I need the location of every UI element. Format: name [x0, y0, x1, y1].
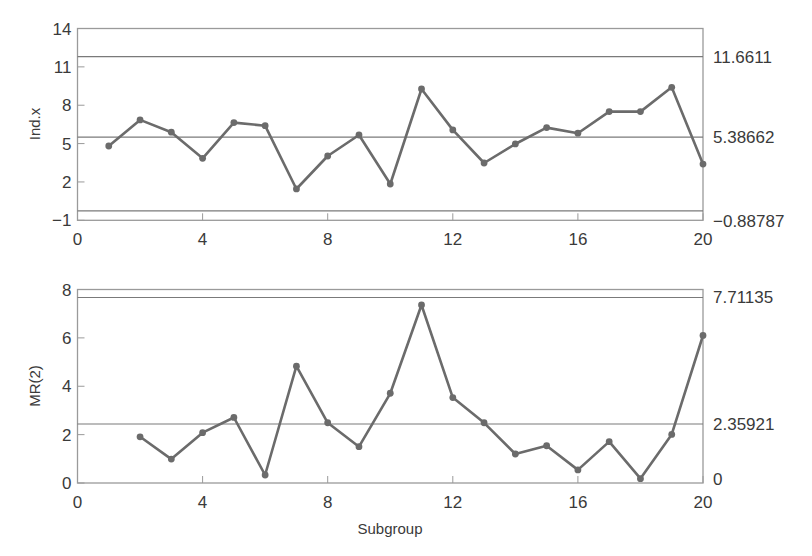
data-point-marker: [387, 181, 394, 188]
data-point-marker: [356, 132, 363, 139]
data-point-marker: [199, 429, 206, 436]
x-tick-label: 8: [323, 493, 332, 512]
y-tick-label: 2: [62, 426, 71, 445]
y-tick-label: 14: [53, 20, 72, 39]
data-point-marker: [449, 394, 456, 401]
data-point-marker: [481, 419, 488, 426]
x-tick-label: 4: [198, 230, 207, 249]
y-tick-label: 2: [62, 173, 71, 192]
y-axis-title: MR(2): [26, 365, 43, 407]
data-point-marker: [230, 119, 237, 126]
data-point-marker: [137, 433, 144, 440]
y-tick-label: 0: [62, 474, 71, 493]
data-point-marker: [668, 84, 675, 91]
data-series-line: [140, 305, 703, 479]
data-point-marker: [637, 108, 644, 115]
moving-range-chart: 024680481216207.711352.359210MR(2)Subgro…: [26, 281, 774, 538]
x-tick-label: 12: [443, 230, 462, 249]
data-point-marker: [387, 390, 394, 397]
data-point-marker: [230, 414, 237, 421]
individuals-mr-control-charts: −1258111404812162011.66115.38662−0.88787…: [0, 0, 812, 556]
data-point-marker: [262, 122, 269, 129]
y-tick-label: 6: [62, 329, 71, 348]
data-point-marker: [668, 431, 675, 438]
x-tick-label: 8: [323, 230, 332, 249]
data-point-marker: [543, 124, 550, 131]
data-point-marker: [575, 130, 582, 137]
data-point-marker: [512, 141, 519, 148]
data-point-marker: [324, 419, 331, 426]
x-tick-label: 20: [694, 493, 713, 512]
y-tick-label: −1: [52, 211, 71, 230]
data-point-marker: [512, 451, 519, 458]
control-label-cl: 5.38662: [713, 128, 774, 147]
data-point-marker: [137, 117, 144, 124]
data-point-marker: [449, 126, 456, 133]
x-tick-label: 20: [694, 230, 713, 249]
data-point-marker: [700, 332, 707, 339]
data-point-marker: [606, 108, 613, 115]
data-point-marker: [418, 86, 425, 93]
data-point-marker: [418, 302, 425, 309]
x-tick-label: 16: [568, 493, 587, 512]
individuals-chart: −1258111404812162011.66115.38662−0.88787…: [26, 20, 784, 250]
control-label-lcl: 0: [713, 470, 722, 489]
data-point-marker: [293, 186, 300, 193]
x-tick-label: 0: [73, 230, 82, 249]
y-tick-label: 11: [54, 58, 72, 77]
control-label-lcl: −0.88787: [713, 212, 784, 231]
control-label-ucl: 7.71135: [713, 288, 773, 307]
data-point-marker: [606, 438, 613, 445]
data-point-marker: [168, 456, 175, 463]
y-tick-label: 8: [62, 96, 71, 115]
x-axis-title: Subgroup: [357, 520, 422, 537]
x-tick-label: 16: [568, 230, 587, 249]
data-point-marker: [105, 143, 112, 150]
data-point-marker: [481, 160, 488, 167]
data-point-marker: [168, 129, 175, 136]
plot-frame: [78, 29, 704, 221]
y-tick-label: 4: [62, 377, 71, 396]
data-point-marker: [199, 155, 206, 162]
data-point-marker: [700, 161, 707, 168]
data-point-marker: [324, 153, 331, 160]
x-tick-label: 0: [73, 493, 82, 512]
y-tick-label: 8: [62, 281, 71, 300]
x-tick-label: 4: [198, 493, 207, 512]
data-point-marker: [356, 443, 363, 450]
data-point-marker: [293, 363, 300, 370]
data-point-marker: [543, 442, 550, 449]
plot-frame: [78, 290, 704, 484]
control-label-cl: 2.35921: [713, 415, 774, 434]
data-point-marker: [637, 475, 644, 482]
y-axis-title: Ind.x: [26, 107, 43, 140]
x-tick-label: 12: [443, 493, 462, 512]
data-series-line: [109, 87, 703, 189]
data-point-marker: [575, 467, 582, 474]
control-label-ucl: 11.6611: [713, 48, 772, 67]
control-chart-figure: −1258111404812162011.66115.38662−0.88787…: [0, 0, 812, 556]
data-point-marker: [262, 472, 269, 479]
y-tick-label: 5: [62, 135, 71, 154]
